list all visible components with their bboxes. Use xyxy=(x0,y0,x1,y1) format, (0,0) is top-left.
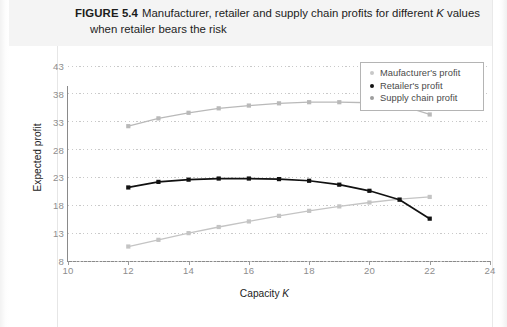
legend-item[interactable]: Supply chain profit xyxy=(367,92,477,105)
x-tick-mark xyxy=(128,261,129,265)
legend-item-label: Retailer's profit xyxy=(380,81,443,91)
x-tick-label: 20 xyxy=(364,265,375,276)
x-tick-label: 18 xyxy=(304,265,315,276)
x-axis-title-text: Capacity xyxy=(240,288,282,299)
figure-number: FIGURE 5.4 xyxy=(75,7,138,19)
figure-caption-text-a: Manufacturer, retailer and supply chain … xyxy=(142,7,436,19)
x-tick-mark xyxy=(490,261,491,265)
figure-caption-text-b: values xyxy=(444,7,480,19)
figure-caption-line-1: FIGURE 5.4Manufacturer, retailer and sup… xyxy=(75,6,485,22)
figure-caption-band: FIGURE 5.4Manufacturer, retailer and sup… xyxy=(9,0,492,46)
legend-item[interactable]: Retailer's profit xyxy=(367,80,477,93)
x-tick-label: 12 xyxy=(123,265,134,276)
x-axis-title: Capacity K xyxy=(0,288,507,299)
x-tick-label: 24 xyxy=(484,265,495,276)
y-tick-label: 38 xyxy=(38,88,64,99)
x-tick-mark xyxy=(369,261,370,265)
legend-marker-dot-icon xyxy=(367,69,376,78)
legend-item[interactable]: Maufacturer's profit xyxy=(367,67,477,80)
x-tick-label: 14 xyxy=(183,265,194,276)
x-axis-title-k-italic: K xyxy=(282,288,289,299)
x-tick-mark xyxy=(189,261,190,265)
legend-marker-dot-icon xyxy=(367,81,376,90)
x-tick-label: 22 xyxy=(424,265,435,276)
y-axis-title: Expected profit xyxy=(32,113,43,203)
legend-item-label: Supply chain profit xyxy=(380,93,457,103)
figure-caption-line-2: when retailer bears the risk xyxy=(75,22,485,38)
x-tick-mark xyxy=(309,261,310,265)
legend-item-label: Maufacturer's profit xyxy=(380,68,460,78)
x-axis-tick-labels: 1012141618202224 xyxy=(0,265,507,281)
x-axis-line xyxy=(68,261,491,262)
x-tick-mark xyxy=(249,261,250,265)
y-tick-label: 43 xyxy=(38,61,64,72)
x-tick-mark xyxy=(68,261,69,265)
figure-container: FIGURE 5.4Manufacturer, retailer and sup… xyxy=(0,0,507,327)
figure-caption: FIGURE 5.4Manufacturer, retailer and sup… xyxy=(75,6,485,37)
figure-caption-k-italic: K xyxy=(436,7,444,19)
chart-legend: Maufacturer's profitRetailer's profitSup… xyxy=(360,62,484,111)
legend-marker-dot-icon xyxy=(367,94,376,103)
x-tick-label: 16 xyxy=(243,265,254,276)
x-tick-mark xyxy=(430,261,431,265)
x-tick-label: 10 xyxy=(62,265,73,276)
y-tick-label: 13 xyxy=(38,228,64,239)
